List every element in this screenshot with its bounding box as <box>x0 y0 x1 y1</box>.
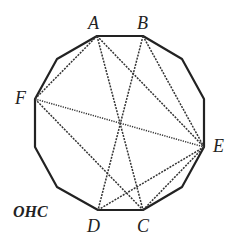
label-c: C <box>137 216 150 236</box>
chord-ae <box>97 36 204 147</box>
label-a: A <box>87 13 100 33</box>
label-d: D <box>86 216 100 236</box>
label-e: E <box>212 136 224 156</box>
dodecagon-diagram: A B C D E F OHC <box>0 0 241 249</box>
label-b: B <box>137 13 148 33</box>
brand-label: OHC <box>13 203 48 220</box>
chords-group <box>35 36 204 210</box>
chord-af <box>35 36 97 99</box>
label-f: F <box>14 88 27 108</box>
chord-be <box>143 36 204 147</box>
chord-de <box>98 147 204 210</box>
